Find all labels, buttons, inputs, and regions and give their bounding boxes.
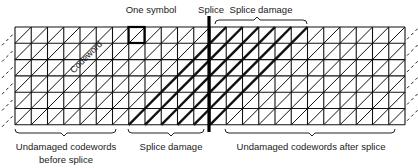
splice-damage-top-label: Splice damage (230, 4, 293, 15)
brace-splice-damage-bottom (128, 129, 204, 136)
undamaged-after-label: Undamaged codewords after splice (237, 141, 386, 152)
brace-splice-damage-top (215, 17, 307, 24)
undamaged-before-label: Undamaged codewords (16, 141, 116, 152)
undamaged-before-label-line2: before splice (39, 154, 93, 165)
one-symbol-label: One symbol (126, 4, 177, 15)
splice-label: Splice (198, 4, 224, 15)
brace-undamaged-before (15, 129, 116, 136)
brace-undamaged-after (225, 129, 395, 136)
splice-damage-bottom-label: Splice damage (140, 141, 203, 152)
